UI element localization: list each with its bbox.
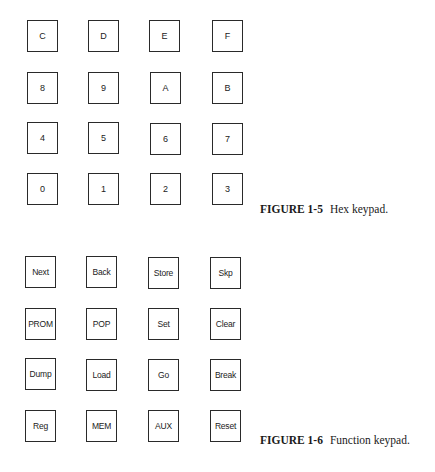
fn-key-load[interactable]: Load [86, 359, 117, 391]
hex-key-b[interactable]: B [212, 72, 243, 104]
fn-key-prom[interactable]: PROM [25, 308, 56, 340]
figure-number: FIGURE 1-6 [260, 434, 323, 446]
fn-key-mem[interactable]: MEM [86, 410, 117, 442]
fn-key-aux[interactable]: AUX [148, 410, 179, 442]
hex-key-a[interactable]: A [150, 72, 181, 104]
hex-key-c[interactable]: C [27, 20, 58, 52]
fn-key-break[interactable]: Break [210, 359, 241, 391]
caption-text: Hex keypad. [330, 203, 388, 215]
caption-text: Function keypad. [330, 434, 410, 446]
hex-key-d[interactable]: D [88, 20, 119, 52]
fn-key-dump[interactable]: Dump [25, 358, 56, 390]
hex-key-1[interactable]: 1 [88, 173, 119, 205]
hex-key-0[interactable]: 0 [27, 173, 58, 205]
hex-key-2[interactable]: 2 [150, 173, 181, 205]
fn-key-reg[interactable]: Reg [25, 410, 56, 442]
function-keypad-caption: FIGURE 1-6Function keypad. [260, 434, 410, 446]
hex-key-9[interactable]: 9 [88, 72, 119, 104]
fn-key-set[interactable]: Set [148, 308, 179, 340]
fn-key-next[interactable]: Next [25, 256, 56, 288]
figure-number: FIGURE 1-5 [260, 203, 323, 215]
hex-key-6[interactable]: 6 [150, 123, 181, 155]
hex-key-5[interactable]: 5 [88, 122, 119, 154]
fn-key-back[interactable]: Back [86, 256, 117, 288]
fn-key-store[interactable]: Store [148, 257, 179, 289]
fn-key-skp[interactable]: Skp [210, 257, 241, 289]
hex-keypad-caption: FIGURE 1-5Hex keypad. [260, 203, 388, 215]
fn-key-go[interactable]: Go [148, 359, 179, 391]
hex-key-4[interactable]: 4 [27, 122, 58, 154]
hex-key-e[interactable]: E [149, 20, 180, 52]
hex-key-f[interactable]: F [212, 20, 243, 52]
fn-key-pop[interactable]: POP [86, 308, 117, 340]
fn-key-reset[interactable]: Reset [210, 410, 241, 442]
hex-key-7[interactable]: 7 [212, 123, 243, 155]
fn-key-clear[interactable]: Clear [210, 308, 241, 340]
hex-key-3[interactable]: 3 [212, 173, 243, 205]
hex-key-8[interactable]: 8 [27, 72, 58, 104]
